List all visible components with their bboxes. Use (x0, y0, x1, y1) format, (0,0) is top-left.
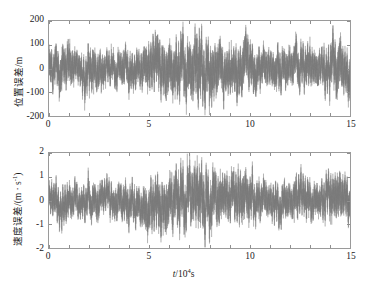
x-tick-mark (89, 153, 90, 156)
x-tick-mark (109, 113, 110, 116)
x-tick-mark (230, 245, 231, 248)
y-tick-mark (347, 153, 350, 154)
x-tick-mark (109, 21, 110, 24)
x-tick-mark (350, 153, 351, 156)
x-tick-mark (69, 245, 70, 248)
x-tick-mark (189, 113, 190, 116)
x-tick-mark (69, 113, 70, 116)
x-tick-mark (149, 113, 150, 116)
y-axis-title-close: ) (13, 173, 23, 176)
y-tick-mark (49, 177, 52, 178)
y-axis-title-exponent: -1 (11, 176, 18, 181)
x-tick-mark (250, 113, 251, 116)
x-tick-label: 0 (46, 250, 51, 262)
x-tick-mark (169, 21, 170, 24)
x-tick-label: 5 (147, 250, 152, 262)
x-tick-mark (290, 245, 291, 248)
y-tick-mark (347, 201, 350, 202)
x-tick-mark (129, 113, 130, 116)
x-tick-mark (350, 245, 351, 248)
position-error-x-axis-ticks: 0 5 10 15 (48, 118, 351, 132)
x-tick-mark (149, 153, 150, 156)
y-tick-label: 1 (39, 172, 44, 182)
x-tick-mark (129, 245, 130, 248)
x-tick-mark (250, 153, 251, 156)
x-tick-mark (89, 245, 90, 248)
x-tick-label: 0 (46, 118, 51, 130)
y-tick-mark (347, 69, 350, 70)
x-tick-mark (129, 21, 130, 24)
x-axis-title: t/104s (0, 267, 367, 279)
x-tick-mark (109, 153, 110, 156)
x-tick-mark (189, 21, 190, 24)
y-tick-mark (49, 92, 52, 93)
position-error-plot-area (48, 20, 351, 117)
position-error-panel: 200 100 0 -100 -200 0 5 10 15 位置误差/m (0, 6, 367, 141)
x-tick-mark (230, 113, 231, 116)
x-tick-mark (330, 113, 331, 116)
y-tick-label: -2 (36, 244, 44, 254)
y-tick-label: -200 (27, 112, 44, 122)
x-tick-mark (210, 21, 211, 24)
y-tick-label: -1 (36, 220, 44, 230)
x-tick-mark (169, 113, 170, 116)
y-axis-title-unit: /(m · s (13, 181, 23, 206)
y-tick-label: 100 (30, 40, 44, 50)
x-tick-mark (310, 21, 311, 24)
x-tick-mark (210, 113, 211, 116)
x-tick-mark (69, 21, 70, 24)
y-tick-mark (49, 248, 52, 249)
x-tick-mark (330, 153, 331, 156)
y-tick-mark (347, 224, 350, 225)
velocity-error-panel: 2 1 0 -1 -2 0 5 10 15 速度误差/(m · s-1) t/1… (0, 143, 367, 289)
y-tick-mark (347, 248, 350, 249)
x-tick-mark (330, 21, 331, 24)
x-tick-label: 15 (346, 250, 356, 262)
x-tick-mark (310, 245, 311, 248)
x-tick-mark (310, 153, 311, 156)
x-tick-mark (330, 245, 331, 248)
x-tick-mark (189, 153, 190, 156)
x-axis-title-unit: s (191, 269, 195, 279)
y-tick-mark (49, 224, 52, 225)
x-tick-mark (250, 245, 251, 248)
y-tick-label: 2 (39, 147, 44, 157)
x-tick-mark (169, 245, 170, 248)
y-tick-mark (49, 69, 52, 70)
x-axis-title-mid: /10 (175, 269, 187, 279)
x-tick-mark (270, 113, 271, 116)
x-tick-mark (109, 245, 110, 248)
velocity-error-plot-area (48, 152, 351, 249)
y-tick-mark (347, 92, 350, 93)
y-tick-mark (49, 45, 52, 46)
y-tick-mark (347, 177, 350, 178)
y-tick-mark (347, 21, 350, 22)
x-tick-mark (250, 21, 251, 24)
y-tick-mark (347, 116, 350, 117)
x-tick-mark (270, 153, 271, 156)
velocity-error-trace (49, 153, 350, 248)
x-tick-mark (89, 113, 90, 116)
position-error-y-axis-title: 位置误差/m (11, 57, 25, 107)
position-error-trace (49, 21, 350, 116)
x-tick-label: 10 (245, 250, 255, 262)
figure-container: 200 100 0 -100 -200 0 5 10 15 位置误差/m 2 1… (0, 0, 367, 289)
y-tick-mark (49, 153, 52, 154)
x-tick-mark (169, 153, 170, 156)
velocity-error-x-axis-ticks: 0 5 10 15 (48, 250, 351, 264)
y-tick-mark (49, 116, 52, 117)
x-tick-mark (290, 153, 291, 156)
y-tick-mark (347, 45, 350, 46)
velocity-error-y-axis-title: 速度误差/(m · s-1) (10, 173, 24, 246)
x-tick-mark (230, 153, 231, 156)
y-tick-label: 0 (39, 196, 44, 206)
x-tick-mark (270, 245, 271, 248)
x-tick-label: 5 (147, 118, 152, 130)
x-tick-mark (149, 21, 150, 24)
x-tick-mark (290, 21, 291, 24)
x-tick-label: 10 (245, 118, 255, 130)
y-tick-mark (49, 21, 52, 22)
x-tick-mark (129, 153, 130, 156)
x-tick-mark (310, 113, 311, 116)
x-tick-mark (149, 245, 150, 248)
